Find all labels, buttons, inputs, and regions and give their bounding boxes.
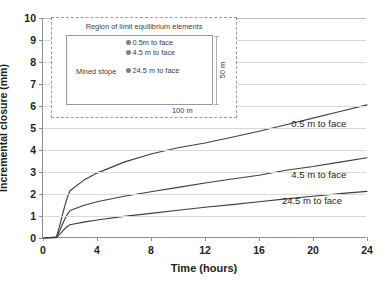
y-axis-tick-label: 2	[30, 188, 36, 200]
y-axis-tick-label: 4	[30, 144, 36, 156]
x-axis-tick	[205, 237, 206, 241]
mined-stope-label: Mined stope	[76, 67, 116, 76]
point-marker-icon	[126, 40, 131, 45]
y-axis-tick	[39, 18, 43, 19]
y-axis-tick-label: 0	[30, 232, 36, 244]
y-axis-tick	[39, 216, 43, 217]
series-annotation: 4.5 m to face	[291, 169, 346, 180]
gridline-horizontal	[43, 216, 366, 217]
x-axis-tick	[43, 237, 44, 241]
y-axis-tick-label: 9	[30, 34, 36, 46]
series-annotation: 24.5 m to face	[282, 194, 342, 205]
y-axis-tick	[39, 84, 43, 85]
measurement-point-label: 4.5 m to face	[133, 48, 176, 57]
x-axis-tick-label: 16	[253, 244, 265, 256]
inset-diagram: Region of limit equilibrium elements Min…	[51, 17, 237, 118]
gridline-horizontal	[43, 150, 366, 151]
x-axis-tick	[259, 237, 260, 241]
y-axis-tick-label: 8	[30, 56, 36, 68]
y-axis-tick	[39, 106, 43, 107]
y-axis-tick-label: 1	[30, 210, 36, 222]
measurement-point-1: 4.5 m to face	[126, 48, 175, 57]
x-axis-tick	[151, 237, 152, 241]
y-axis-tick-label: 10	[24, 12, 36, 24]
y-axis-title: Incremental closure (mm)	[0, 64, 9, 192]
x-axis-title: Time (hours)	[171, 262, 237, 274]
vertical-dimension-label: 50 m	[218, 62, 227, 78]
y-axis-tick-label: 7	[30, 78, 36, 90]
x-axis-tick-label: 4	[94, 244, 100, 256]
inset-title: Region of limit equilibrium elements	[86, 22, 203, 31]
measurement-point-label: 0.5m to face	[133, 38, 174, 47]
x-axis-tick	[97, 237, 98, 241]
y-axis-tick-label: 3	[30, 166, 36, 178]
y-axis-tick	[39, 40, 43, 41]
y-axis-tick	[39, 194, 43, 195]
point-marker-icon	[126, 68, 131, 73]
dimension-cap-icon	[214, 36, 219, 37]
x-axis-tick-label: 20	[307, 244, 319, 256]
y-axis-tick	[39, 150, 43, 151]
measurement-point-label: 24.5 m to face	[133, 66, 180, 75]
y-axis-tick-label: 6	[30, 100, 36, 112]
horizontal-dimension-label: 100 m	[172, 106, 193, 115]
y-axis-tick-label: 5	[30, 122, 36, 134]
measurement-point-2: 24.5 m to face	[126, 66, 179, 75]
gridline-horizontal	[43, 128, 366, 129]
point-marker-icon	[126, 50, 131, 55]
x-axis-tick-label: 0	[40, 244, 46, 256]
x-axis-tick	[313, 237, 314, 241]
x-axis-tick-label: 24	[361, 244, 373, 256]
x-axis-tick-label: 8	[148, 244, 154, 256]
x-axis-tick	[367, 237, 368, 241]
y-axis-tick	[39, 128, 43, 129]
measurement-point-0: 0.5m to face	[126, 38, 173, 47]
series-annotation: 0.5 m to face	[291, 117, 346, 128]
chart-figure: Incremental closure (mm) Time (hours) 01…	[0, 0, 388, 285]
y-axis-tick	[39, 172, 43, 173]
y-axis-tick	[39, 62, 43, 63]
dimension-cap-icon	[214, 104, 219, 105]
x-axis-tick-label: 12	[199, 244, 211, 256]
